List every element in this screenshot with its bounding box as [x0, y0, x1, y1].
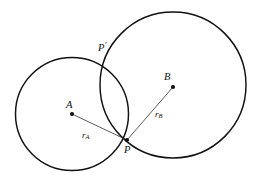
label-point-p: P — [124, 145, 130, 156]
label-point-b: B — [164, 72, 170, 83]
label-radius-b: rB — [155, 110, 163, 120]
radius-segment-b — [127, 87, 173, 140]
radius-segment-a — [72, 114, 127, 140]
radius-b-subscript: B — [159, 112, 163, 119]
label-point-a: A — [66, 100, 72, 111]
label-point-p-prime: P′ — [98, 41, 106, 53]
prime-mark-icon: ′ — [104, 40, 106, 50]
point-dot-p — [125, 138, 129, 142]
geometry-figure: A B P P′ rA rB — [0, 0, 256, 182]
point-dot-b — [171, 85, 175, 89]
label-radius-a: rA — [82, 131, 90, 141]
radius-a-subscript: A — [86, 133, 90, 140]
point-dot-a — [70, 112, 74, 116]
